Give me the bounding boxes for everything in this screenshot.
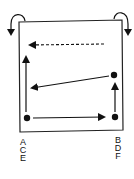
dashed-arrow — [30, 44, 104, 45]
diagonal-arrow — [32, 76, 109, 88]
node-bottom-right — [112, 114, 118, 120]
curved-arrow-right-icon — [114, 13, 132, 36]
curved-arrow-left-icon — [7, 15, 25, 36]
right-label-3: F — [113, 152, 123, 160]
bottom-right-arrow — [33, 117, 104, 118]
node-mid-right — [111, 72, 117, 78]
node-bottom-left — [24, 115, 30, 121]
left-label-3: E — [18, 154, 28, 162]
